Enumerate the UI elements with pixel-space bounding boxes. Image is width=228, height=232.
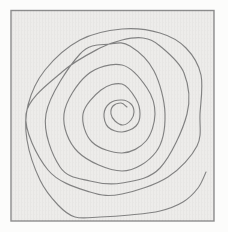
drawing-canvas [0,0,228,232]
spiral-figure [0,0,228,232]
